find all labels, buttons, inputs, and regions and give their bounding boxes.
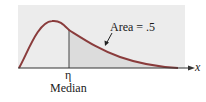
axis-arrow-icon xyxy=(188,66,195,71)
diagram-canvas xyxy=(0,0,206,102)
median-caption: Median xyxy=(50,81,87,96)
x-axis-label: x xyxy=(195,60,200,75)
area-label: Area = .5 xyxy=(110,20,155,35)
skewed-distribution-diagram: Area = .5 η Median x xyxy=(0,0,206,102)
